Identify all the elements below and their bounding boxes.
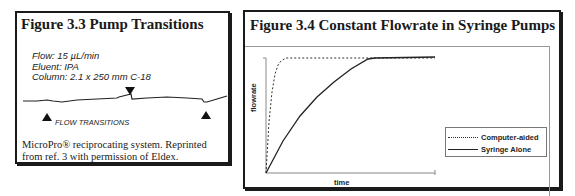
caption-line: MicroPro® reciprocating system. Reprinte… [22, 139, 232, 151]
transition-up-triangle-icon [42, 113, 52, 121]
flowrate-chart [245, 12, 561, 189]
transition-down-triangle-icon [125, 87, 135, 95]
figure-3-3-panel: Figure 3.3 Pump Transitions Flow: 15 µL/… [15, 11, 230, 164]
solid-line-swatch-icon [448, 149, 478, 150]
figure-caption: MicroPro® reciprocating system. Reprinte… [22, 139, 232, 163]
x-axis-label: time [334, 178, 349, 187]
series-computer-aided [266, 58, 435, 173]
baseline-trace [23, 94, 227, 102]
legend-label: Computer-aided [481, 133, 539, 142]
legend-item-syringe-alone: Syringe Alone [448, 144, 531, 154]
y-axis-label: flowrate [249, 83, 258, 112]
figure-3-4-panel: Figure 3.4 Constant Flowrate in Syringe … [243, 10, 561, 189]
legend-item-computer-aided: Computer-aided [448, 132, 539, 142]
flow-transitions-label: FLOW TRANSITIONS [55, 118, 129, 127]
transition-up-triangle-icon [201, 111, 211, 119]
dotted-line-swatch-icon [448, 137, 478, 138]
chart-legend: Computer-aided Syringe Alone [445, 127, 547, 157]
legend-label: Syringe Alone [481, 145, 531, 154]
series-syringe-alone [266, 57, 435, 173]
caption-line: from ref. 3 with permission of Eldex. [22, 151, 232, 163]
